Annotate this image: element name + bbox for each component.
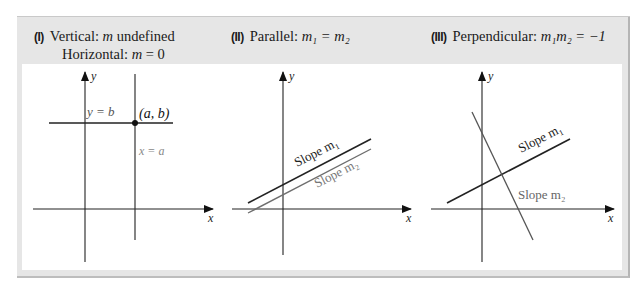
line-1-label: Slope m₁: [516, 121, 565, 156]
line-2-label: Slope m₂: [518, 187, 566, 202]
line-1-label: Slope m₁: [292, 135, 341, 170]
vertical-line-label: x = a: [138, 144, 164, 158]
y-axis-label: y: [288, 69, 295, 83]
diagrams-svg: y x y = b (a, b) x = a y x Slope m₁ Slop…: [0, 0, 643, 294]
x-axis-label: x: [207, 211, 214, 225]
diagram-panel-3: y x Slope m₁ Slope m₂: [431, 69, 614, 262]
point-label: (a, b): [139, 106, 170, 122]
y-axis-label: y: [487, 69, 494, 83]
x-axis-label: x: [405, 211, 412, 225]
line-slope-m2: [472, 112, 533, 240]
diagram-panel-1: y x y = b (a, b) x = a: [33, 69, 214, 262]
line-2-label: Slope m₂: [312, 156, 361, 191]
intersection-point: [132, 120, 138, 126]
diagram-panel-2: y x Slope m₁ Slope m₂: [232, 69, 412, 255]
horizontal-line-label: y = b: [85, 104, 115, 119]
y-axis-label: y: [90, 69, 97, 83]
x-axis-label: x: [607, 211, 614, 225]
